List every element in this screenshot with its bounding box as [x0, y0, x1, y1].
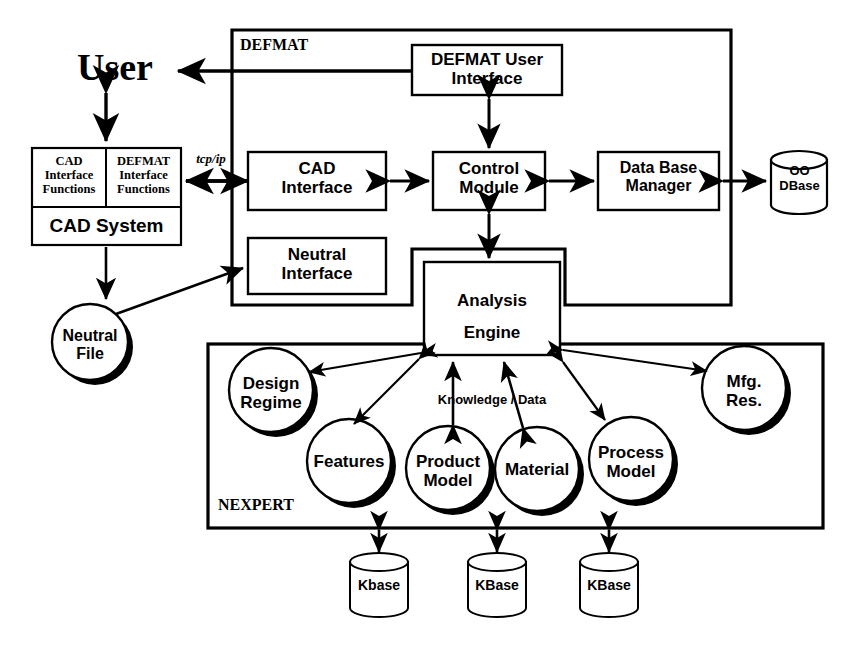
product-model-circle	[406, 426, 495, 515]
control-module-box	[433, 152, 545, 210]
connector-neutralfile-neutralinterface	[116, 268, 243, 314]
design-regime-circle	[229, 348, 318, 437]
kbase-cylinder-3	[580, 553, 638, 617]
cad-system-box	[32, 148, 181, 245]
connector-analysisengine-processmodel	[563, 362, 605, 420]
cad-interface-box	[248, 152, 386, 210]
neutral-file-circle	[52, 304, 133, 385]
connector-analysisengine-mfgres	[563, 350, 707, 371]
neutral-interface-box	[248, 238, 386, 294]
features-circle	[307, 419, 396, 508]
defmat-user-interface-box	[412, 45, 562, 95]
kbase-cylinder-1	[350, 553, 408, 617]
oo-dbase-cylinder	[771, 151, 827, 214]
material-circle	[495, 427, 584, 516]
connector-material-analysisengine	[504, 362, 523, 428]
data-base-manager-box	[598, 152, 719, 210]
connector-analysisengine-designregime	[309, 353, 421, 372]
architecture-diagram: User DEFMAT NEXPERT CAD Interface Functi…	[0, 0, 857, 649]
diagram-canvas	[0, 0, 857, 649]
kbase-cylinder-2	[468, 553, 526, 617]
connector-analysisengine-features	[354, 359, 419, 424]
process-model-circle	[589, 417, 678, 506]
analysis-engine-box	[424, 262, 560, 355]
mfg-res-circle	[702, 346, 791, 435]
